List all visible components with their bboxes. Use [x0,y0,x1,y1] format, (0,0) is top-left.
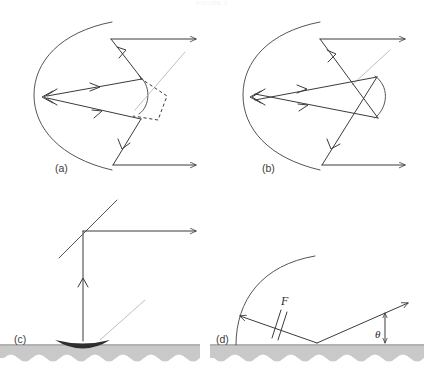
panel-d-group: F θ (d) [210,256,424,362]
reference-line-b [352,50,390,85]
focus-point-arrowhead-b [252,89,265,105]
ray-direction-arrow-lower-a [92,110,102,118]
secondary-mirror-convex-a [139,76,148,114]
reflected-ray-bottom-b [322,77,377,165]
ray-direction-arrow-top-b [327,50,336,62]
optics-figure: (a) (b) [0,0,424,371]
feed-line-c [100,300,145,340]
panel-a-group: (a) [34,22,196,174]
panel-label-b: (b) [262,162,275,174]
dashed-construction-a [133,78,167,120]
panel-label-a: (a) [55,162,68,174]
reflected-ray-bottom-a [113,119,141,165]
panel-label-c: (c) [14,333,26,345]
ground-band-d [210,344,424,362]
panel-label-d: (d) [216,333,229,345]
focus-ray-upper-b [255,94,378,118]
focus-point-arrowhead-a [44,89,57,105]
ground-band-c [0,344,200,362]
panel-c-group: (c) [0,200,200,362]
reflected-ray-d [317,303,408,343]
focal-length-label-d: F [280,294,289,308]
reference-line-a [135,52,185,110]
ray-direction-arrow-lower-b [298,104,308,111]
angle-theta-label-d: θ [375,328,381,340]
curved-mirror-arc-d [236,256,315,345]
reflected-ray-top-a [111,39,142,79]
ray-direction-arrow-bottom-b [327,139,340,149]
secondary-mirror-concave-b [375,76,386,118]
flat-mirror-c [59,200,117,258]
panel-b-group: (b) [243,22,405,174]
focus-ray-lower-a [47,98,141,119]
focus-ray-lower-b [255,77,377,100]
focus-ray-upper-a [47,79,142,96]
figure-canvas: (a) (b) [0,0,424,371]
